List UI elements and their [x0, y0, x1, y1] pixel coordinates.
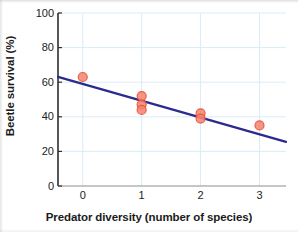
y-tick-label: 60	[24, 77, 54, 88]
horizontal-gridlines	[58, 13, 286, 151]
plot-area	[58, 13, 286, 186]
x-axis-tick-labels: 0123	[0, 190, 298, 204]
y-tick-label: 40	[24, 111, 54, 122]
data-point	[255, 121, 264, 130]
data-points	[78, 73, 264, 130]
x-tick-label: 3	[246, 190, 272, 201]
beetle-survival-scatter-figure: Beetle survival (%) 020406080100 0123 Pr…	[0, 0, 298, 232]
x-tick-label: 1	[129, 190, 155, 201]
y-axis-title: Beetle survival (%)	[2, 0, 18, 172]
trend-line-segment	[58, 77, 286, 142]
data-point	[137, 105, 146, 114]
axis-lines	[58, 13, 286, 186]
trend-line	[58, 77, 286, 142]
x-axis-title: Predator diversity (number of species)	[0, 211, 298, 223]
y-tick-label: 80	[24, 42, 54, 53]
data-point	[78, 73, 87, 82]
y-tick-label: 20	[24, 146, 54, 157]
vertical-gridlines	[83, 13, 260, 186]
plot-svg	[58, 13, 286, 186]
x-tick-label: 2	[188, 190, 214, 201]
x-tick-label: 0	[70, 190, 96, 201]
data-point	[137, 92, 146, 101]
data-point	[196, 114, 205, 123]
y-tick-label: 100	[24, 8, 54, 19]
